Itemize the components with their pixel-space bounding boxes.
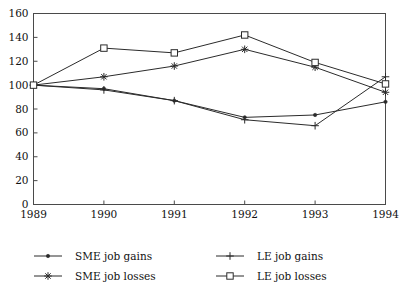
series-le-job-gains xyxy=(30,73,390,130)
data-point xyxy=(101,45,107,51)
legend-entry[interactable]: SME job gains xyxy=(34,250,152,262)
square-marker-icon xyxy=(312,59,318,65)
dot-marker-icon xyxy=(384,100,387,103)
data-point xyxy=(242,32,248,38)
x-tick-label: 1991 xyxy=(161,208,188,220)
series-le-job-losses xyxy=(30,32,388,89)
data-point xyxy=(311,122,319,130)
legend-marker xyxy=(46,254,49,257)
legend-label: LE job losses xyxy=(257,270,327,282)
y-tick-label: 40 xyxy=(15,150,28,162)
series-line xyxy=(34,77,386,126)
y-tick-label: 20 xyxy=(15,174,28,186)
x-tick-label: 1990 xyxy=(91,208,118,220)
y-tick-label: 120 xyxy=(8,55,28,67)
legend-entry[interactable]: LE job gains xyxy=(216,250,323,262)
data-point xyxy=(100,86,108,94)
y-tick-label: 60 xyxy=(15,126,28,138)
data-point xyxy=(312,59,318,65)
y-tick-label: 160 xyxy=(8,7,28,19)
legend-marker xyxy=(227,273,233,279)
data-point xyxy=(384,100,387,103)
x-tick-label: 1993 xyxy=(302,208,329,220)
square-marker-icon xyxy=(227,273,233,279)
legend-marker xyxy=(44,272,52,280)
x-tick-label: 1992 xyxy=(231,208,258,220)
data-point xyxy=(171,62,179,70)
legend-entry[interactable]: LE job losses xyxy=(216,270,327,282)
legend-label: SME job gains xyxy=(75,250,152,262)
data-point xyxy=(171,50,177,56)
x-tick-label: 1994 xyxy=(372,208,399,220)
legend-entry[interactable]: SME job losses xyxy=(34,270,156,282)
data-point xyxy=(171,97,179,105)
data-point xyxy=(30,82,36,88)
y-tick-label: 80 xyxy=(15,103,28,115)
square-marker-icon xyxy=(101,45,107,51)
dot-marker-icon xyxy=(46,254,49,257)
series-line xyxy=(34,85,386,117)
square-marker-icon xyxy=(382,81,388,87)
data-point xyxy=(313,113,316,116)
data-point xyxy=(382,73,390,81)
square-marker-icon xyxy=(171,50,177,56)
legend-marker xyxy=(226,252,234,260)
square-marker-icon xyxy=(242,32,248,38)
legend-label: LE job gains xyxy=(257,250,323,262)
data-point xyxy=(382,88,390,96)
x-tick-label: 1989 xyxy=(20,208,47,220)
data-point xyxy=(100,73,108,81)
y-tick-label: 140 xyxy=(8,31,28,43)
data-point xyxy=(382,81,388,87)
dot-marker-icon xyxy=(313,113,316,116)
series-line xyxy=(34,49,386,92)
series-line xyxy=(34,35,386,85)
square-marker-icon xyxy=(30,82,36,88)
line-chart: 0204060801001201401601989199019911992199… xyxy=(0,0,407,292)
y-tick-label: 100 xyxy=(8,79,28,91)
chart-figure: 0204060801001201401601989199019911992199… xyxy=(0,0,407,292)
data-point xyxy=(241,46,249,54)
legend-label: SME job losses xyxy=(75,270,156,282)
